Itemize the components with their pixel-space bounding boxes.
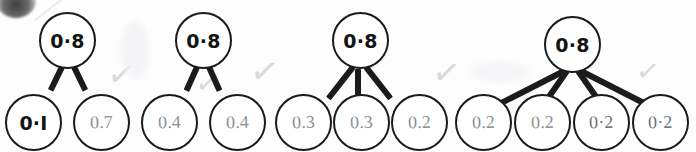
node-value: 0.3 — [350, 112, 374, 134]
node-value: 0·8 — [50, 30, 84, 52]
part-node[interactable]: 0.2 — [391, 94, 448, 151]
node-value: 0.2 — [531, 112, 555, 134]
node-value: 0.3 — [292, 112, 316, 134]
check-mark-icon: ✓ — [430, 54, 462, 92]
ink-blob-artifact — [0, 0, 36, 18]
part-node[interactable]: 0.4 — [141, 94, 198, 151]
node-value: 0.7 — [90, 112, 114, 134]
node-value: 0.2 — [408, 112, 432, 134]
node-value: 0·I — [19, 112, 47, 134]
whole-node[interactable]: 0·8 — [332, 12, 389, 69]
worksheet-canvas: ✓ ✓ ✓ ✓ ✓ 0·8 0·I 0.7 0·8 0.4 0.4 0·8 0.… — [0, 0, 696, 152]
bond-connector — [71, 66, 88, 92]
node-value: 0.4 — [226, 112, 250, 134]
node-value: 0·8 — [555, 34, 589, 56]
part-node[interactable]: 0.3 — [333, 94, 390, 151]
part-node[interactable]: 0.4 — [209, 94, 266, 151]
whole-node[interactable]: 0·8 — [544, 16, 601, 73]
part-node[interactable]: 0.7 — [73, 94, 130, 151]
whole-node[interactable]: 0·8 — [175, 12, 232, 69]
bond-connector — [48, 66, 65, 92]
node-value: 0·8 — [343, 30, 377, 52]
paper-smudge — [120, 20, 150, 80]
check-mark-icon: ✓ — [634, 57, 661, 88]
node-value: 0·8 — [186, 30, 220, 52]
paper-smudge — [470, 60, 530, 84]
part-node[interactable]: 0·I — [5, 94, 62, 151]
part-node[interactable]: 0.2 — [514, 94, 571, 151]
part-node[interactable]: 0·2 — [573, 94, 630, 151]
check-mark-icon: ✓ — [248, 53, 280, 91]
node-value: 0·2 — [589, 112, 614, 134]
bond-connector — [355, 69, 361, 95]
part-node[interactable]: 0.3 — [275, 94, 332, 151]
node-value: 0.2 — [472, 112, 496, 134]
node-value: 0·2 — [648, 112, 673, 134]
part-node[interactable]: 0.2 — [455, 94, 512, 151]
node-value: 0.4 — [158, 112, 182, 134]
whole-node[interactable]: 0·8 — [39, 12, 96, 69]
part-node[interactable]: 0·2 — [632, 94, 689, 151]
